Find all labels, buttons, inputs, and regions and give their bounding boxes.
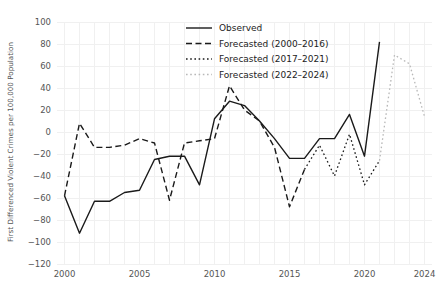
legend-label: Forecasted (2017–2021)	[219, 54, 329, 64]
x-tick-label: 2024	[414, 269, 436, 279]
y-tick-label: −120	[28, 259, 51, 269]
y-tick-label: −60	[33, 193, 51, 203]
legend-label: Observed	[219, 23, 262, 33]
x-tick-label: 2010	[204, 269, 226, 279]
y-axis-title: First Differenced Violent Crimes per 100…	[6, 42, 15, 242]
y-tick-label: 100	[35, 17, 51, 27]
y-axis-tick-labels: 100806040200−20−40−60−80−100−120	[28, 17, 51, 269]
y-tick-label: 40	[40, 83, 51, 93]
chart-figure: 100806040200−20−40−60−80−100−120 2000200…	[0, 0, 440, 284]
series-line	[305, 134, 380, 185]
legend-label: Forecasted (2000–2016)	[219, 39, 329, 49]
y-tick-label: 20	[40, 105, 51, 115]
y-tick-label: −40	[33, 171, 51, 181]
y-tick-label: −20	[33, 149, 51, 159]
line-chart: 100806040200−20−40−60−80−100−120 2000200…	[0, 0, 440, 284]
y-tick-label: 0	[46, 127, 51, 137]
x-tick-label: 2015	[279, 269, 301, 279]
x-tick-label: 2005	[129, 269, 151, 279]
y-tick-label: 60	[40, 61, 51, 71]
legend-label: Forecasted (2022–2024)	[219, 70, 329, 80]
y-tick-label: −80	[33, 215, 51, 225]
x-tick-label: 2000	[54, 269, 76, 279]
x-axis-tick-labels: 200020052010201520202024	[54, 269, 436, 279]
chart-legend: ObservedForecasted (2000–2016)Forecasted…	[186, 23, 329, 80]
y-tick-label: 80	[40, 39, 51, 49]
y-tick-label: −100	[28, 237, 51, 247]
x-tick-label: 2020	[354, 269, 376, 279]
series-line	[380, 55, 425, 161]
